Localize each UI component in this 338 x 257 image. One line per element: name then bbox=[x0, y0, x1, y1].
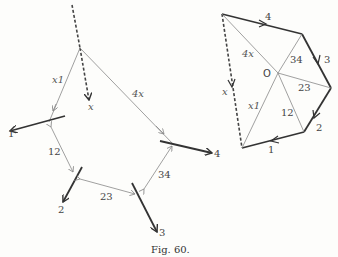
label-side-4: 4 bbox=[265, 11, 271, 22]
figure-canvas: x x1 4x 1 12 2 23 3 34 4 4 bbox=[0, 0, 338, 257]
label-ray-x1: x1 bbox=[248, 100, 260, 111]
force-2-arrow bbox=[63, 167, 82, 202]
label-force-3: 3 bbox=[159, 227, 165, 238]
figure-caption: Fig. 60. bbox=[151, 244, 190, 255]
ray-4x-polygon bbox=[222, 14, 278, 73]
side-4 bbox=[222, 14, 302, 34]
label-x1: x1 bbox=[52, 74, 64, 85]
label-x: x bbox=[88, 101, 94, 112]
label-ray-23: 23 bbox=[298, 82, 311, 93]
label-ray-34: 34 bbox=[290, 54, 303, 65]
force-4-arrow bbox=[160, 141, 212, 153]
label-pole-O: O bbox=[263, 68, 271, 79]
label-force-4: 4 bbox=[214, 148, 220, 159]
funicular-diagram: x x1 4x 1 12 2 23 3 34 4 bbox=[8, 5, 220, 238]
force-1-arrow bbox=[10, 116, 65, 131]
force-polygon: 4 3 2 1 x 4x 34 23 12 x1 O bbox=[222, 11, 331, 155]
label-34: 34 bbox=[158, 169, 171, 180]
label-23: 23 bbox=[100, 191, 113, 202]
side-x-dashed bbox=[222, 14, 242, 148]
ray-x1 bbox=[49, 48, 80, 122]
force-3-arrow bbox=[132, 183, 157, 232]
ray-4x-arrow bbox=[156, 126, 164, 134]
label-force-1: 1 bbox=[8, 128, 14, 139]
label-ray-12: 12 bbox=[281, 107, 294, 118]
label-12: 12 bbox=[48, 146, 61, 157]
label-4x: 4x bbox=[131, 88, 144, 99]
label-force-2: 2 bbox=[58, 204, 64, 215]
dashed-line-x-upper bbox=[72, 5, 80, 48]
label-side-2: 2 bbox=[316, 122, 322, 133]
ray-34 bbox=[144, 146, 172, 189]
ray-x1-arrow bbox=[53, 104, 56, 111]
label-side-3: 3 bbox=[324, 54, 330, 65]
label-side-x: x bbox=[222, 86, 228, 97]
label-side-1: 1 bbox=[268, 144, 274, 155]
label-ray-4x: 4x bbox=[241, 48, 254, 59]
